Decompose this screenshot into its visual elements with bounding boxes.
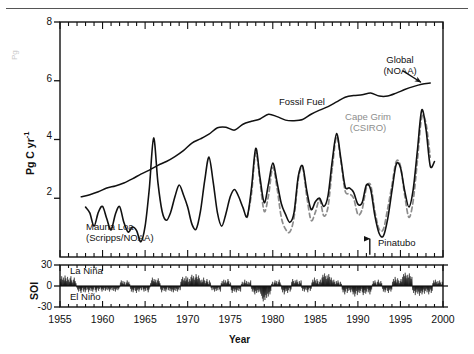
x-axis-year-1990: 1990 — [336, 313, 380, 325]
x-axis-year-1965: 1965 — [123, 313, 167, 325]
main-ytick-4: 4 — [34, 130, 52, 141]
x-axis-year-1970: 1970 — [166, 313, 210, 325]
x-axis-year-1975: 1975 — [208, 313, 252, 325]
x-axis-year-1985: 1985 — [293, 313, 337, 325]
annotation-fossil-fuel: Fossil Fuel — [265, 97, 339, 108]
main-ytick-8: 8 — [34, 16, 52, 27]
soi-ytick-neg30: -30 — [22, 301, 52, 312]
x-axis-label: Year — [229, 334, 250, 345]
annotation-global-noaa-line2: (NOAA) — [383, 65, 416, 76]
x-axis-year-1995: 1995 — [378, 313, 422, 325]
soi-ytick-30: 30 — [26, 259, 52, 270]
annotation-cape-grim-line2: (CSIRO) — [350, 122, 386, 133]
series-fossil-fuel — [81, 83, 430, 197]
figure-carbon-cycle: Pg Pg C yr-1 SOI — [0, 0, 474, 354]
annotation-cape-grim: Cape Grim(CSIRO) — [330, 112, 406, 133]
annotation-cape-grim-line1: Cape Grim — [345, 111, 391, 122]
annotation-global-noaa-line1: Global — [386, 54, 413, 65]
annotation-mauna-loa: Mauna Loa(Scripps/NOAA) — [86, 222, 196, 243]
soi-ytick-0: 0 — [26, 280, 52, 291]
annotation-pinatubo: Pinatubo — [378, 238, 438, 249]
x-axis-year-1980: 1980 — [251, 313, 295, 325]
annotation-global-noaa: Global(NOAA) — [371, 55, 429, 76]
x-axis-year-1955: 1955 — [38, 313, 82, 325]
annotation-mauna-loa-line2: (Scripps/NOAA) — [86, 232, 154, 243]
x-axis-year-1960: 1960 — [81, 313, 125, 325]
annotation-el-nino: El Niño — [70, 292, 130, 303]
annotation-la-nina: La Niña — [70, 266, 130, 277]
main-ytick-2: 2 — [34, 186, 52, 197]
x-axis-year-2000: 2000 — [421, 313, 465, 325]
annotation-mauna-loa-line1: Mauna Loa — [86, 221, 134, 232]
main-ytick-6: 6 — [34, 73, 52, 84]
